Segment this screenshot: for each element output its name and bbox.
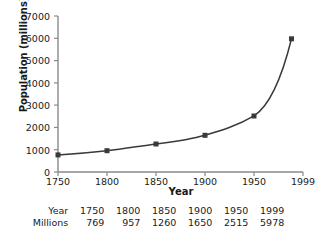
- data-point-1800: [105, 148, 110, 153]
- table-cell-millions-2: 1260: [143, 217, 179, 229]
- table-cell-year-2: 1850: [143, 205, 179, 217]
- y-axis-title: Population (millions): [18, 0, 29, 125]
- table-cell-year-4: 1950: [215, 205, 251, 217]
- table-row-label-year: Year: [30, 205, 72, 217]
- data-point-1999: [289, 36, 294, 41]
- population-growth-figure: 7000 6000 5000 4000 3000 2000 1000 0 175…: [0, 0, 317, 240]
- table-cell-millions-0: 769: [71, 217, 107, 229]
- table-cell-millions-5: 5978: [251, 217, 287, 229]
- table-cell-millions-3: 1650: [179, 217, 215, 229]
- data-point-1750: [56, 152, 61, 157]
- data-point-1950: [252, 114, 257, 119]
- data-point-1900: [203, 133, 208, 138]
- x-axis-title: Year: [58, 186, 304, 197]
- table-cell-year-5: 1999: [251, 205, 287, 217]
- chart-plot-area: 7000 6000 5000 4000 3000 2000 1000 0 175…: [0, 0, 317, 200]
- data-point-markers: [56, 36, 295, 157]
- data-point-1850: [154, 142, 159, 147]
- table-row-label-millions: Millions: [30, 217, 72, 229]
- population-line-series: [58, 39, 292, 155]
- table-cell-millions-1: 957: [107, 217, 143, 229]
- table-row-year: Year 1750 1800 1850 1900 1950 1999: [30, 205, 288, 217]
- table-cell-year-3: 1900: [179, 205, 215, 217]
- table-cell-millions-4: 2515: [215, 217, 251, 229]
- table-cell-year-0: 1750: [71, 205, 107, 217]
- table-cell-year-1: 1800: [107, 205, 143, 217]
- table-row-millions: Millions 769 957 1260 1650 2515 5978: [30, 217, 288, 229]
- y-tick-label-1000: 1000: [16, 145, 50, 156]
- data-value-table: Year 1750 1800 1850 1900 1950 1999 Milli…: [0, 205, 317, 229]
